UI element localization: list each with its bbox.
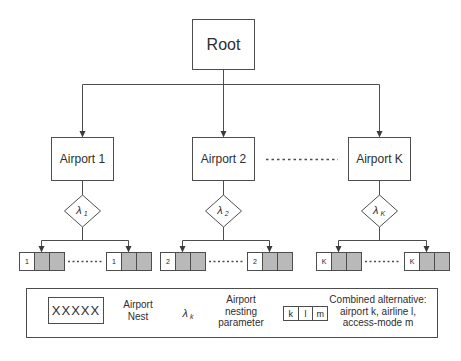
leaf-alternative: 1 (106, 252, 152, 271)
legend-lambda-label: λk (173, 307, 203, 320)
leaf-cell-access-mode (191, 253, 205, 270)
leaf-cell-airline (122, 253, 137, 270)
leaf-cell-airport: 1 (107, 253, 122, 270)
legend-airport-nest-label: Airport Nest (110, 299, 166, 322)
lambda-k-label: λK (364, 204, 394, 217)
leaf-cell-access-mode (50, 253, 64, 270)
leaf-cell-airport: 2 (248, 253, 263, 270)
root-node: Root (192, 19, 255, 70)
airport-2-label: Airport 2 (201, 152, 246, 166)
leaf-cell-airline (263, 253, 278, 270)
leaf-cell-airline (332, 253, 347, 270)
leaf-cell-airline (35, 253, 50, 270)
airport-2-node: Airport 2 (192, 137, 255, 181)
leaf-cell-access-mode (435, 253, 449, 270)
airport-k-label: Airport K (356, 152, 403, 166)
legend-nesting-parameter-label: Airport nesting parameter (209, 294, 273, 329)
legend-nest-sample-box: XXXXX (48, 297, 104, 324)
legend-combined-alternative-label: Combined alternative: airport k, airline… (322, 294, 434, 329)
legend-nest-sample-label: XXXXX (52, 303, 100, 318)
root-node-label: Root (207, 36, 241, 54)
leaf-cell-airline (420, 253, 435, 270)
leaf-cell-airport: 2 (161, 253, 176, 270)
legend-cell-airport-k: k (284, 307, 299, 320)
leaf-cell-airline (176, 253, 191, 270)
leaf-alternative: 1 (19, 252, 65, 271)
nested-logit-tree-diagram: Root Airport 1 Airport 2 Airport K λ1 λ2… (0, 0, 461, 361)
airport-k-node: Airport K (348, 137, 411, 181)
leaf-cell-access-mode (347, 253, 361, 270)
leaf-alternative: 2 (247, 252, 293, 271)
lambda-1-label: λ1 (67, 204, 97, 217)
leaf-cell-airport: K (317, 253, 332, 270)
leaf-cell-access-mode (137, 253, 151, 270)
legend-cell-airline-l: l (299, 307, 314, 320)
leaf-alternative: K (316, 252, 362, 271)
airport-1-label: Airport 1 (60, 152, 105, 166)
lambda-2-label: λ2 (208, 204, 238, 217)
leaf-alternative: K (404, 252, 450, 271)
leaf-alternative: 2 (160, 252, 206, 271)
leaf-cell-access-mode (278, 253, 292, 270)
airport-1-node: Airport 1 (51, 137, 114, 181)
leaf-cell-airport: K (405, 253, 420, 270)
leaf-cell-airport: 1 (20, 253, 35, 270)
